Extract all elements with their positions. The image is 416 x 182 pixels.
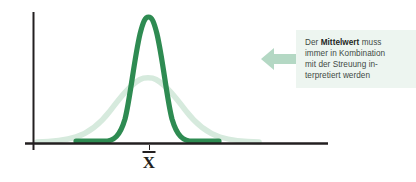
callout-line-1-post: muss — [359, 38, 381, 47]
figure-canvas: X Der Mittelwert muss immer in Kombinati… — [0, 0, 416, 182]
distribution-plot — [0, 0, 416, 182]
callout-line-2: immer in Kombination — [305, 48, 410, 59]
callout-line-1: Der Mittelwert muss — [305, 37, 410, 48]
curve-wide-dispersion — [37, 78, 259, 142]
callout-line-3: mit der Streuung in- — [305, 59, 410, 70]
callout-line-4: terpretiert werden — [305, 70, 410, 81]
arrow-left-icon — [260, 46, 298, 72]
callout-keyword-mittelwert: Mittelwert — [321, 38, 360, 47]
annotation-callout: Der Mittelwert muss immer in Kombination… — [296, 30, 416, 88]
callout-line-1-pre: Der — [305, 38, 321, 47]
